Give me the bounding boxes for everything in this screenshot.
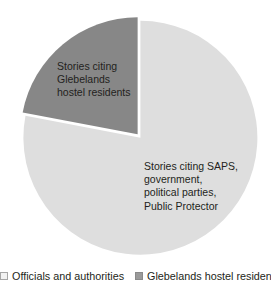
slice-label-line: government, <box>144 173 238 186</box>
pie-graphic <box>0 0 271 262</box>
legend-item-label: Glebelands hostel residents <box>147 270 271 282</box>
dark-square-icon <box>135 272 143 280</box>
slice-label-line: Stories citing <box>57 60 131 73</box>
slice-label-line: political parties, <box>144 186 238 199</box>
slice-label-line: hostel residents <box>57 86 131 99</box>
slice-label-officials-and-authorities: Stories citing SAPS, government, politic… <box>144 160 238 213</box>
slice-label-glebelands-hostel-residents: Stories citing Glebelands hostel residen… <box>57 60 131 100</box>
legend-item-label: Officials and authorities <box>12 270 124 282</box>
legend-item-officials-and-authorities[interactable]: Officials and authorities <box>0 270 124 282</box>
light-square-icon <box>0 272 8 280</box>
slice-label-line: Glebelands <box>57 73 131 86</box>
slice-label-line: Public Protector <box>144 200 238 213</box>
pie-plot-area: Stories citing Glebelands hostel residen… <box>0 0 271 262</box>
legend-item-glebelands-hostel-residents[interactable]: Glebelands hostel residents <box>135 270 271 282</box>
pie-chart: Stories citing Glebelands hostel residen… <box>0 0 271 288</box>
chart-legend: Officials and authorities Glebelands hos… <box>0 265 271 287</box>
slice-label-line: Stories citing SAPS, <box>144 160 238 173</box>
